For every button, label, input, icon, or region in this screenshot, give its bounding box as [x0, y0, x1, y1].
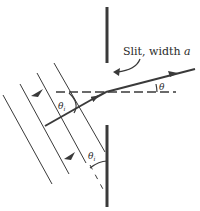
- theta-i-upper-label: θi: [58, 101, 65, 112]
- theta-label: θ: [159, 82, 165, 92]
- slit-pointer-arrow: [117, 59, 140, 72]
- incident-ray: [45, 96, 98, 126]
- propagation-arrow-icons: [31, 89, 75, 160]
- theta-angle-arc: [156, 84, 157, 92]
- incident-ray-segment: [95, 92, 106, 98]
- slit-pointer-arrowhead-icon: [113, 68, 120, 76]
- theta-i-lower-arc: [90, 161, 107, 168]
- incident-wavefronts: [3, 63, 105, 191]
- diffraction-diagram: Slit, width a θ θi θi: [0, 0, 200, 211]
- theta-i-lower-label: θi: [88, 151, 95, 162]
- slit-label: Slit, width a: [123, 45, 191, 58]
